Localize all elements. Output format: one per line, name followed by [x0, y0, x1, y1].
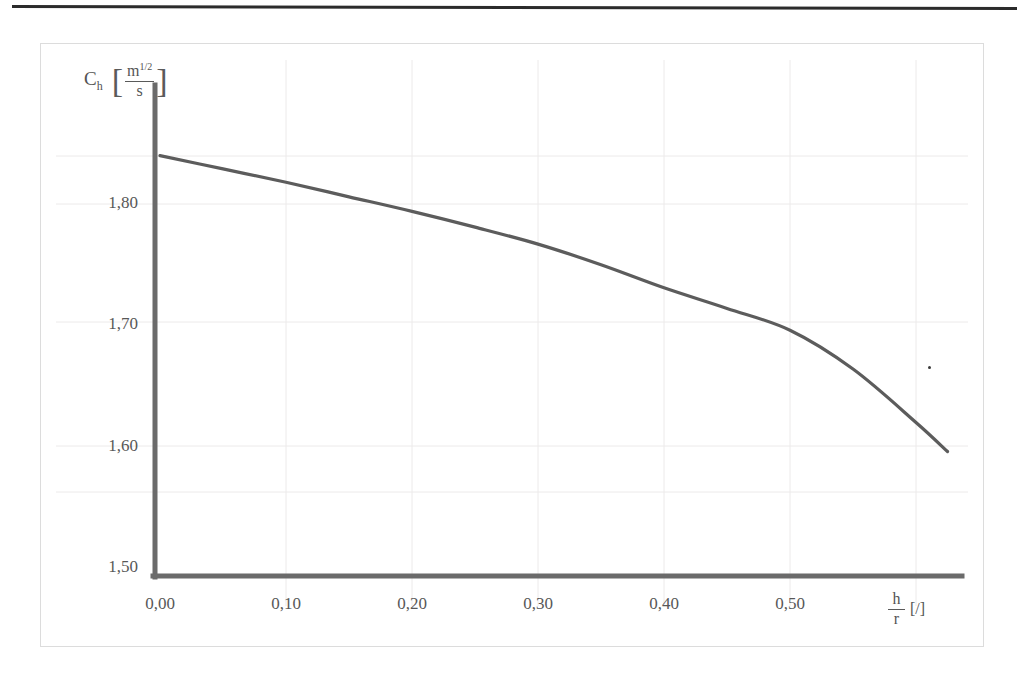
y-axis-symbol: Ch [84, 68, 103, 94]
y-tick-label: 1,70 [78, 314, 138, 334]
unit-fraction: m1/2 s [123, 62, 156, 100]
x-tick-label: 0,00 [125, 594, 195, 614]
chart-svg [0, 0, 1029, 680]
x-tick-label: 0,50 [755, 594, 825, 614]
x-axis-numerator: h [891, 591, 903, 609]
bracket-left-icon: [ [112, 68, 123, 95]
unit-numerator: m1/2 [125, 62, 154, 81]
x-tick-label: 0,40 [629, 594, 699, 614]
x-axis-denominator: r [892, 610, 901, 628]
y-axis-unit: [ m1/2 s ] [112, 62, 168, 100]
scan-speck [928, 366, 931, 369]
y-axis-label: Ch [ m1/2 s ] [84, 62, 168, 100]
x-axis-label: h r [/] [886, 591, 925, 628]
bracket-right-icon: ] [156, 68, 167, 95]
y-tick-label: 1,60 [78, 436, 138, 456]
unit-denominator: s [135, 82, 145, 100]
gridlines [56, 60, 968, 606]
x-axis-unit: [/] [910, 600, 925, 618]
y-tick-label: 1,50 [78, 557, 138, 577]
x-tick-label: 0,20 [377, 594, 447, 614]
y-tick-label: 1,80 [78, 193, 138, 213]
chart-plot-area: Ch [ m1/2 s ] h r [/] 1,501,601,701,80 0… [0, 0, 1029, 680]
x-tick-label: 0,10 [251, 594, 321, 614]
data-curve [160, 156, 948, 452]
x-tick-label: 0,30 [503, 594, 573, 614]
x-axis-fraction: h r [886, 591, 907, 628]
